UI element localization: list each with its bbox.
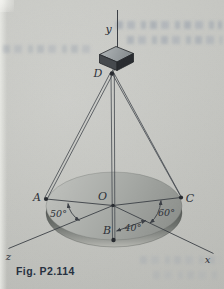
suspended-block: [100, 47, 134, 71]
axis-z-label: z: [5, 251, 12, 262]
axis-x-label: x: [205, 254, 211, 265]
point-a: [44, 197, 48, 201]
point-o: [111, 204, 114, 207]
point-c: [179, 195, 183, 199]
axis-y-label: y: [104, 23, 112, 36]
point-d: [110, 71, 114, 75]
angle-50-label: 50°: [50, 208, 67, 219]
scanned-textbook-figure: y D O A C B z x 50° 40° 60° Fig. P2.114: [0, 0, 224, 289]
angle-60-label: 60°: [158, 207, 175, 218]
point-o-label: O: [98, 190, 107, 203]
point-b: [111, 238, 115, 242]
point-b-label: B: [102, 224, 111, 237]
point-a-label: A: [32, 191, 41, 204]
point-d-label: D: [93, 67, 103, 80]
tripod-figure: y D O A C B z x 50° 40° 60°: [0, 0, 224, 289]
angle-40-label: 40°: [124, 222, 142, 233]
point-c-label: C: [186, 192, 195, 205]
figure-caption: Fig. P2.114: [16, 265, 75, 277]
